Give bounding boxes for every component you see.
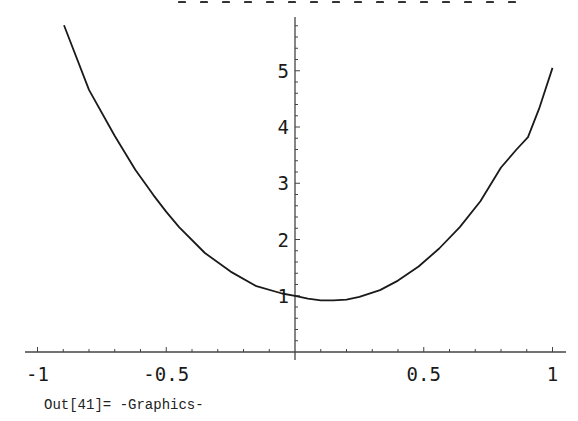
y-tick-label: 5 [278, 60, 289, 82]
y-tick-label: 1 [278, 285, 289, 307]
output-cell: Out[41]= -Graphics- [44, 397, 204, 413]
x-tick-label: -0.5 [143, 363, 189, 385]
axes [25, 17, 566, 360]
y-tick-label: 3 [278, 172, 289, 194]
plot-graphic: -1-0.50.5112345 [0, 0, 578, 395]
tick-labels: -1-0.50.5112345 [26, 60, 558, 385]
x-tick-label: 0.5 [407, 363, 441, 385]
output-value: -Graphics- [120, 397, 204, 413]
x-tick-label: -1 [26, 363, 49, 385]
plot-curve [64, 25, 553, 300]
curve-line [64, 25, 553, 300]
output-label: Out[41]= [44, 397, 111, 413]
y-tick-label: 2 [278, 229, 289, 251]
y-tick-label: 4 [278, 116, 289, 138]
x-tick-label: 1 [547, 363, 558, 385]
